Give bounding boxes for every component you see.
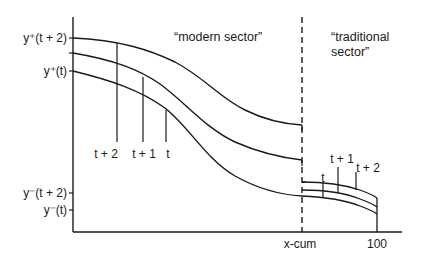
label-y-plus-t2: y⁺(t + 2) [23, 31, 67, 45]
label-xcum: x-cum [284, 237, 317, 251]
label-traditional-sector-line2: sector” [331, 45, 369, 59]
label-marker-t-modern: t [166, 147, 170, 161]
label-marker-t2-modern: t + 2 [94, 147, 118, 161]
curve-t-traditional [302, 196, 377, 214]
label-marker-t1-modern: t + 1 [132, 147, 156, 161]
income-distribution-diagram: y⁺(t + 2) y⁺(t) y⁻(t + 2) y⁻(t) t + 2 t … [0, 0, 448, 261]
label-marker-t1-traditional: t + 1 [330, 152, 354, 166]
label-traditional-sector-line1: “traditional [331, 30, 389, 44]
curve-t-modern [73, 71, 302, 196]
label-marker-t2-traditional: t + 2 [356, 161, 380, 175]
label-y-minus-t: y⁻(t) [44, 203, 67, 217]
label-y-minus-t2: y⁻(t + 2) [23, 186, 67, 200]
label-y-plus-t: y⁺(t) [44, 64, 67, 78]
curve-t2-modern [73, 38, 302, 125]
label-100: 100 [367, 237, 387, 251]
label-modern-sector: “modern sector” [174, 30, 262, 44]
